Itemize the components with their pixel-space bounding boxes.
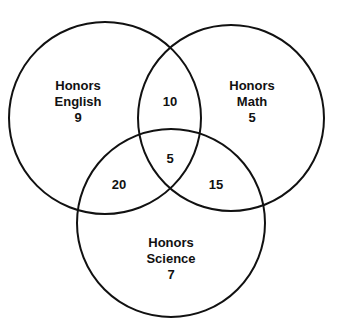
english-label-line1: Honors	[55, 78, 101, 93]
math-science-count: 15	[209, 177, 223, 192]
english-label-line2: English	[55, 94, 102, 109]
math-only-count: 5	[248, 110, 255, 125]
math-label-line2: Math	[237, 94, 267, 109]
english-math-count: 10	[163, 94, 177, 109]
science-only-count: 7	[167, 267, 174, 282]
english-science-count: 20	[112, 177, 126, 192]
all-three-count: 5	[166, 151, 173, 166]
science-label-line2: Science	[146, 251, 195, 266]
venn-diagram: Honors English 9 Honors Math 5 Honors Sc…	[0, 0, 338, 336]
circle-honors-english	[9, 22, 201, 214]
science-label-line1: Honors	[148, 235, 194, 250]
english-only-count: 9	[74, 110, 81, 125]
circle-honors-math	[138, 25, 324, 211]
math-label-line1: Honors	[229, 78, 275, 93]
